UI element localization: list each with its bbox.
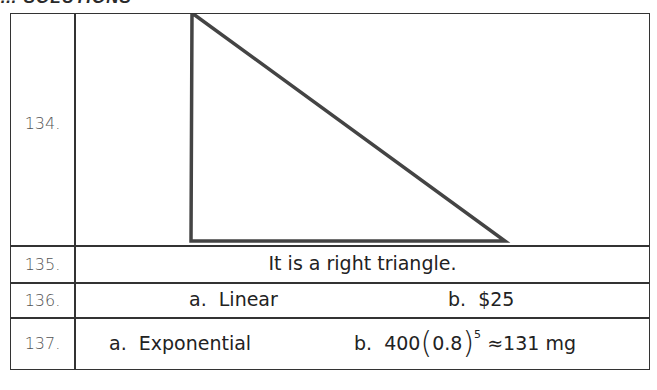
row-number-135: 135.: [11, 255, 74, 274]
formula-base: 0.8: [432, 332, 462, 354]
right-triangle-figure: [11, 14, 651, 249]
formula-exponent: 5: [474, 328, 481, 341]
row-number-137: 137.: [11, 334, 74, 353]
row-divider: [11, 317, 649, 319]
solutions-table: 134. 135. It is a right triangle. 136. a…: [10, 13, 650, 370]
answer-137-a: a. Exponential: [109, 332, 309, 354]
answer-136-b: b. $25: [448, 288, 598, 310]
section-heading: … SOLUTIONS: [0, 0, 132, 8]
row-divider: [11, 282, 649, 284]
answer-137-b: b. 400(0.8)5 ≈131 mg: [354, 325, 654, 360]
formula-result: ≈131 mg: [487, 332, 576, 354]
answer-136-a: a. Linear: [189, 288, 389, 310]
row-divider: [11, 245, 649, 247]
answer-135: It is a right triangle.: [76, 252, 649, 274]
formula-prefix: b. 400: [354, 332, 420, 354]
row-number-136: 136.: [11, 291, 74, 310]
